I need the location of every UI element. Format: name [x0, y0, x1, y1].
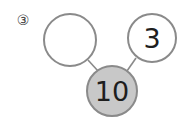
part-right-value: 3 [143, 23, 160, 54]
part-left-circle[interactable] [44, 14, 96, 66]
problem-number: ③ [17, 12, 30, 28]
part-left[interactable] [44, 14, 96, 66]
connector-left [88, 60, 98, 71]
whole-value: 10 [95, 76, 129, 107]
whole: 10 [87, 66, 137, 116]
connector-right [127, 58, 136, 71]
number-bond-diagram: ③ 3 10 [0, 0, 184, 122]
part-right: 3 [128, 14, 176, 62]
